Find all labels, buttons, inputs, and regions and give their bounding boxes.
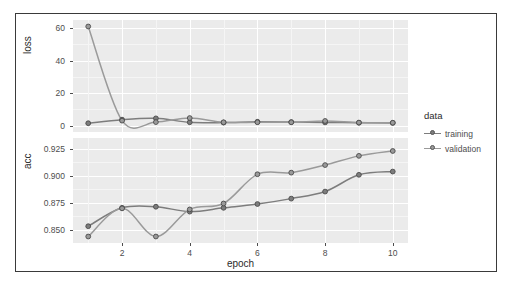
data-point-validation xyxy=(357,120,362,125)
x-tick-mark xyxy=(122,243,123,246)
x-tick-label: 8 xyxy=(323,248,328,258)
y-axis-label-loss: loss xyxy=(22,36,33,54)
data-point-validation xyxy=(86,234,91,239)
legend-label: training xyxy=(445,129,473,139)
data-point-validation xyxy=(221,120,226,125)
acc-series-layer xyxy=(73,138,408,243)
data-point-validation xyxy=(289,120,294,125)
data-point-training xyxy=(357,172,362,177)
y-tick-mark xyxy=(70,61,73,62)
series-line-validation xyxy=(88,151,393,237)
y-tick-mark xyxy=(70,176,73,177)
series-line-training xyxy=(88,172,393,227)
data-point-validation xyxy=(390,149,395,154)
y-tick-mark xyxy=(70,93,73,94)
data-point-validation xyxy=(289,170,294,175)
legend-items: trainingvalidation xyxy=(424,126,498,156)
x-tick-mark xyxy=(190,243,191,246)
x-tick-mark xyxy=(257,243,258,246)
data-point-validation xyxy=(120,118,125,123)
y-tick-mark xyxy=(70,230,73,231)
x-tick-label: 10 xyxy=(388,248,397,258)
legend: data trainingvalidation xyxy=(424,110,498,156)
data-point-validation xyxy=(154,234,159,239)
y-tick-label: 40 xyxy=(56,56,65,66)
y-tick-label: 0.925 xyxy=(44,144,65,154)
data-point-validation xyxy=(390,120,395,125)
data-point-validation xyxy=(221,201,226,206)
data-point-validation xyxy=(120,206,125,211)
y-tick-label: 0.900 xyxy=(44,171,65,181)
data-point-training xyxy=(255,202,260,207)
legend-item-validation[interactable]: validation xyxy=(424,141,498,156)
data-point-validation xyxy=(86,24,91,29)
y-tick-label: 0.850 xyxy=(44,225,65,235)
y-axis-label-acc: acc xyxy=(22,153,33,169)
data-point-validation xyxy=(187,116,192,121)
plot-area: 0204060 loss 0.8500.8750.9000.925 acc 24… xyxy=(16,14,496,271)
legend-key-icon xyxy=(424,142,441,155)
y-tick-mark xyxy=(70,149,73,150)
x-tick-mark xyxy=(393,243,394,246)
data-point-validation xyxy=(187,207,192,212)
data-point-validation xyxy=(323,163,328,168)
data-point-training xyxy=(86,121,91,126)
data-point-training xyxy=(323,189,328,194)
legend-item-training[interactable]: training xyxy=(424,126,498,141)
y-tick-mark xyxy=(70,28,73,29)
data-point-training xyxy=(289,196,294,201)
data-point-training xyxy=(154,204,159,209)
y-tick-label: 0.875 xyxy=(44,198,65,208)
legend-label: validation xyxy=(445,144,481,154)
data-point-validation xyxy=(255,172,260,177)
data-point-validation xyxy=(154,120,159,125)
y-tick-mark xyxy=(70,126,73,127)
plot-frame: 0204060 loss 0.8500.8750.9000.925 acc 24… xyxy=(15,13,497,272)
y-tick-mark xyxy=(70,203,73,204)
y-tick-label: 0 xyxy=(60,121,65,131)
data-point-training xyxy=(86,224,91,229)
legend-key-icon xyxy=(424,127,441,140)
x-axis-label: epoch xyxy=(73,258,408,269)
data-point-training xyxy=(390,169,395,174)
loss-series-layer xyxy=(73,20,408,132)
data-point-validation xyxy=(357,153,362,158)
facet-panel-acc xyxy=(73,138,408,243)
x-tick-mark xyxy=(325,243,326,246)
data-point-validation xyxy=(255,120,260,125)
x-tick-label: 2 xyxy=(120,248,125,258)
x-tick-label: 4 xyxy=(187,248,192,258)
facet-panel-loss xyxy=(73,20,408,132)
y-tick-label: 60 xyxy=(56,23,65,33)
y-tick-label: 20 xyxy=(56,88,65,98)
data-point-validation xyxy=(323,119,328,124)
series-line-validation xyxy=(88,26,393,128)
x-tick-label: 6 xyxy=(255,248,260,258)
legend-title: data xyxy=(424,110,498,121)
